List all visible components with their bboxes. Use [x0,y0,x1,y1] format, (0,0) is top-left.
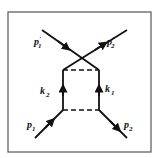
arrow-icon [45,121,52,128]
label-p2prime: p'2 [106,35,115,50]
external-line-p1prime [42,30,99,70]
label-p1: p1 [26,119,36,133]
arrow-icon [58,41,67,48]
label-p2: p2 [123,119,133,133]
label-k2: k2 [40,85,50,99]
arrow-icon [95,44,104,50]
external-line-p2 [99,110,127,138]
label-k1: k1 [105,83,115,97]
label-p1prime: p'1 [33,35,41,50]
external-line-p2prime [63,30,127,70]
external-line-p1 [35,110,63,138]
feynman-diagram: p1 p2 p'1 p'2 k2 k1 [0,0,158,158]
arrow-icon [110,121,118,129]
